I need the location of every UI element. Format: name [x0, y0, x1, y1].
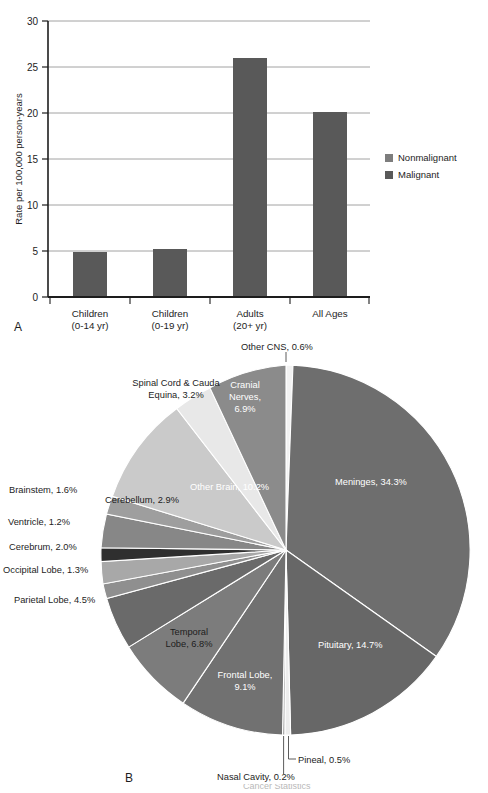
x-axis-ticks [50, 297, 369, 304]
bar-chart-legend: Nonmalignant Malignant [385, 152, 457, 180]
pie-label-pituitary: Pituitary, 14.7% [318, 640, 382, 650]
pie-slices [101, 365, 470, 735]
pie-label-other-cns: Other CNS, 0.6% [241, 342, 313, 352]
pie-label-other-brain: Other Brain, 10.2% [190, 482, 269, 492]
panel-b-letter: B [125, 771, 133, 785]
legend-swatch-nonmalignant[interactable] [385, 154, 393, 162]
pie-label-pineal: Pineal, 0.5% [298, 755, 350, 765]
xlabel-1-line2: (0-19 yr) [151, 320, 188, 331]
xlabel-2-line1: Adults [236, 308, 263, 319]
pie-label-cerebrum: Cerebrum, 2.0% [9, 542, 77, 552]
ytick-label-20: 20 [27, 108, 39, 119]
bar-all-ages[interactable] [313, 112, 347, 297]
pie-label-spinal-cord-line1: Spinal Cord & Cauda [132, 378, 220, 388]
xlabel-0-line2: (0-14 yr) [71, 320, 108, 331]
pie-label-temporal-lobe-line2: Lobe, 6.8% [165, 639, 212, 649]
pie-label-ventricle: Ventricle, 1.2% [8, 517, 70, 527]
pie-label-occipital-lobe: Occipital Lobe, 1.3% [3, 565, 88, 575]
pie-label-cranial-nerves-line1: Cranial [230, 380, 259, 390]
y-axis-title: Rate per 100,000 person-years [13, 93, 24, 225]
panel-b-pie-chart: Other CNS, 0.6% Spinal Cord & Cauda Equi… [0, 340, 488, 793]
legend-label-nonmalignant: Nonmalignant [398, 152, 457, 163]
xlabel-1-line1: Children [152, 308, 189, 319]
legend-label-malignant: Malignant [398, 169, 440, 180]
bar-series-malignant [73, 58, 347, 297]
pie-label-meninges: Meninges, 34.3% [335, 477, 407, 487]
legend-swatch-malignant[interactable] [385, 171, 393, 179]
leader-pineal [289, 736, 297, 759]
y-axis-ticks [42, 21, 48, 297]
pie-label-nasal-cavity: Nasal Cavity, 0.2% [217, 772, 295, 782]
pie-label-frontal-lobe-line2: 9.1% [234, 682, 255, 692]
pie-label-spinal-cord-line2: Equina, 3.2% [148, 390, 203, 400]
xlabel-0-line1: Children [72, 308, 109, 319]
bar-children-0-19[interactable] [153, 249, 187, 297]
ytick-label-0: 0 [32, 292, 38, 303]
pie-label-cranial-nerves-line2: Nerves, [229, 392, 261, 402]
figure-container: 30 25 20 15 10 5 0 Rate per 100,000 pers… [0, 0, 488, 793]
panel-a-letter: A [14, 320, 22, 334]
ytick-label-30: 30 [27, 16, 39, 27]
bar-chart-svg: 30 25 20 15 10 5 0 Rate per 100,000 pers… [0, 0, 488, 340]
pie-label-cerebellum: Cerebellum, 2.9% [105, 495, 179, 505]
pie-label-parietal-lobe: Parietal Lobe, 4.5% [14, 595, 95, 605]
ytick-label-15: 15 [27, 154, 39, 165]
xlabel-3-line1: All Ages [312, 308, 348, 319]
panel-a-bar-chart: 30 25 20 15 10 5 0 Rate per 100,000 pers… [0, 0, 488, 340]
bar-adults-20plus[interactable] [233, 58, 267, 297]
pie-label-temporal-lobe-line1: Temporal [170, 627, 208, 637]
pie-label-brainstem: Brainstem, 1.6% [9, 485, 77, 495]
bar-children-0-14[interactable] [73, 252, 107, 297]
cropped-caption-text: Cancer Statistics [243, 784, 311, 791]
ytick-label-25: 25 [27, 62, 39, 73]
ytick-label-10: 10 [27, 200, 39, 211]
ytick-label-5: 5 [32, 246, 38, 257]
pie-chart-svg: Other CNS, 0.6% Spinal Cord & Cauda Equi… [0, 340, 488, 793]
pie-label-frontal-lobe-line1: Frontal Lobe, [218, 670, 273, 680]
cropped-caption-strip: Cancer Statistics [0, 784, 488, 793]
xlabel-2-line2: (20+ yr) [233, 320, 267, 331]
pie-label-cranial-nerves-line3: 6.9% [234, 404, 255, 414]
